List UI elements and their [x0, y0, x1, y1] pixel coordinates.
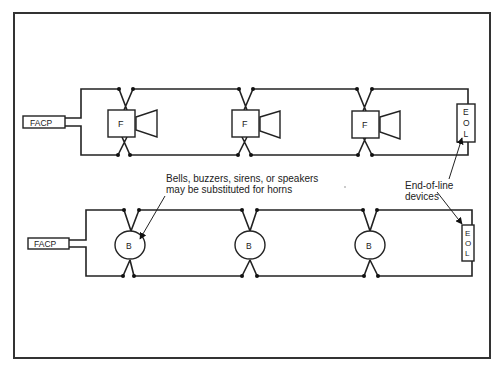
horn-icon [380, 111, 400, 139]
horn-strobe-device: F [232, 89, 280, 155]
svg-text:B: B [246, 241, 252, 251]
svg-text:E: E [465, 229, 470, 238]
svg-text:F: F [242, 119, 248, 129]
svg-text:F: F [362, 120, 368, 130]
bottom-bell-circuit: FACP B B B [28, 208, 474, 278]
bell-device: B [235, 210, 265, 276]
svg-text:L: L [465, 249, 470, 258]
eol-note: End-of-line devices [405, 180, 453, 202]
eol-arrow-top [449, 138, 462, 179]
horn-strobe-device: F [352, 89, 400, 155]
substitution-note-line2: may be substituted for horns [166, 184, 318, 195]
svg-text:B: B [366, 241, 372, 251]
svg-text:O: O [465, 239, 471, 248]
top-horn-circuit: FACP F F F [23, 87, 475, 157]
eol-note-line1: End-of-line [405, 180, 453, 191]
eol-device-top: E O L [457, 104, 475, 142]
eol-device-bottom: E O L [462, 225, 474, 261]
bell-device: B [355, 210, 385, 276]
svg-text:B: B [126, 241, 132, 251]
horn-icon [260, 111, 280, 138]
horn-strobe-device: F [108, 89, 157, 155]
substitution-note: Bells, buzzers, sirens, or speakers may … [166, 173, 318, 195]
svg-text:F: F [118, 119, 124, 129]
svg-text:O: O [463, 118, 470, 128]
substitution-arrow [140, 196, 165, 239]
eol-note-line2: devices [405, 191, 453, 202]
facp-label-bottom: FACP [34, 239, 57, 249]
horn-icon [136, 110, 157, 137]
facp-label-top: FACP [30, 118, 53, 128]
bell-device: B [115, 210, 145, 276]
substitution-note-line1: Bells, buzzers, sirens, or speakers [166, 173, 318, 184]
svg-text:E: E [463, 107, 469, 117]
svg-text:L: L [464, 129, 469, 139]
